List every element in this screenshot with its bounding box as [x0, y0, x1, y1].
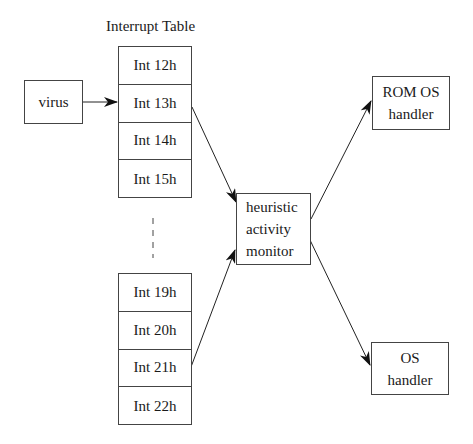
os-handler-box: OS handler	[371, 342, 449, 395]
table-row: Int 14h	[119, 123, 191, 161]
arrow-monitor-to-os	[310, 240, 370, 365]
os-handler-line: OS	[400, 347, 419, 369]
arrow-monitor-to-rom	[311, 101, 371, 219]
rom-os-handler-box: ROM OS handler	[372, 76, 450, 130]
virus-label: virus	[39, 93, 69, 111]
virus-box: virus	[24, 80, 83, 124]
arrow-int21-to-monitor	[191, 250, 235, 367]
os-handler-line: handler	[388, 369, 433, 391]
table-row: Int 13h	[119, 85, 191, 123]
interrupt-table-top: Int 12h Int 13h Int 14h Int 15h	[118, 46, 192, 198]
table-row: Int 22h	[119, 387, 191, 425]
rom-handler-line: ROM OS	[382, 81, 439, 103]
table-row: Int 12h	[119, 47, 191, 85]
table-row: Int 20h	[119, 312, 191, 350]
rom-handler-line: handler	[389, 103, 434, 125]
table-row: Int 19h	[119, 274, 191, 312]
monitor-line: monitor	[246, 240, 294, 262]
interrupt-table-title: Interrupt Table	[106, 18, 195, 35]
table-row: Int 15h	[119, 160, 191, 198]
monitor-line: heuristic	[246, 196, 298, 218]
heuristic-activity-monitor-box: heuristic activity monitor	[236, 193, 311, 265]
monitor-line: activity	[246, 218, 291, 240]
arrow-int13-to-monitor	[192, 107, 236, 202]
table-row: Int 21h	[119, 350, 191, 388]
interrupt-table-bottom: Int 19h Int 20h Int 21h Int 22h	[118, 273, 192, 425]
